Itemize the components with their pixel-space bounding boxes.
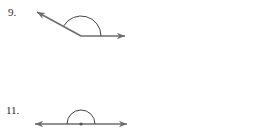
problem-11: 11.: [0, 49, 134, 89]
angle-figure-obtuse: [30, 4, 134, 48]
problem-number-9: 9.: [8, 7, 16, 18]
angle-figure-straight: [28, 101, 134, 131]
vertex-point: [79, 122, 82, 125]
angle-arc: [67, 110, 95, 124]
angle-arc: [64, 16, 101, 36]
ray-upper-left: [37, 12, 81, 36]
problem-12: 12.: [134, 49, 268, 131]
worksheet-page: 9. 10.: [0, 0, 268, 131]
problem-number-11: 11.: [6, 105, 19, 116]
